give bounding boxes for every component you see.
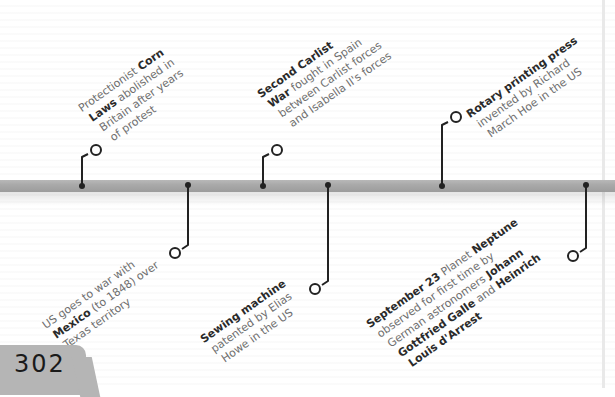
connector-carlist-war: [260, 145, 282, 189]
connector-rotary-press: [439, 112, 461, 189]
connector-neptune: [568, 182, 589, 261]
connector-corn-laws: [79, 145, 101, 189]
page-number: 302: [14, 350, 66, 378]
connector-mexico-war: [170, 182, 191, 258]
connector-sewing-machine: [310, 182, 331, 294]
